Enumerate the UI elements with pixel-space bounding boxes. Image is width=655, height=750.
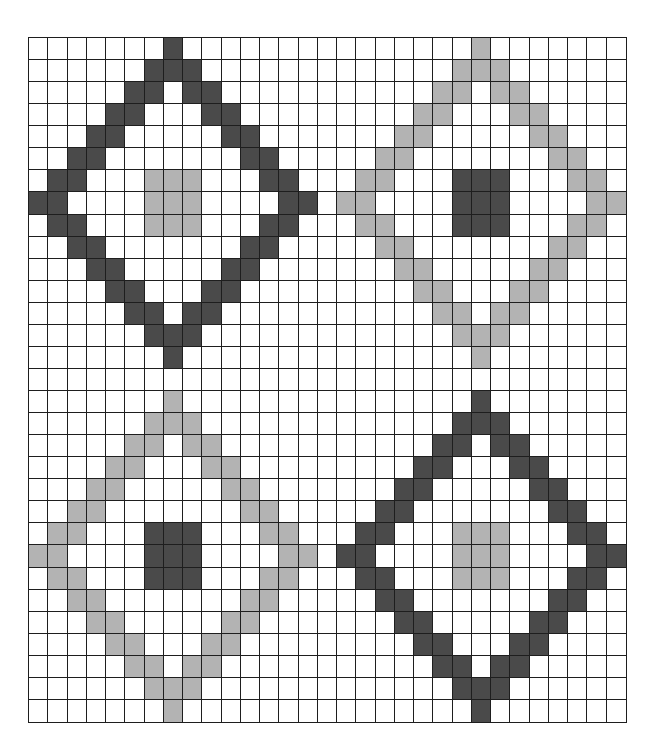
grid-cell <box>491 126 510 148</box>
grid-cell <box>414 237 433 259</box>
bottom-right-diamond-ring-cell <box>607 545 626 567</box>
grid-cell <box>530 590 549 612</box>
top-left-diamond-ring-cell <box>106 104 125 126</box>
grid-cell <box>376 192 395 214</box>
grid-cell <box>549 60 568 82</box>
grid-cell <box>337 435 356 457</box>
grid-cell <box>337 325 356 347</box>
grid-cell <box>587 303 606 325</box>
grid-cell <box>607 303 626 325</box>
grid-cell <box>510 237 529 259</box>
grid-cell <box>125 545 144 567</box>
grid-cell <box>530 192 549 214</box>
top-right-diamond-ring-cell <box>337 192 356 214</box>
grid-cell <box>376 545 395 567</box>
grid-cell <box>279 435 298 457</box>
bottom-right-diamond-ring-cell <box>472 678 491 700</box>
grid-cell <box>241 215 260 237</box>
grid-cell <box>433 568 452 590</box>
grid-cell <box>241 170 260 192</box>
grid-cell <box>299 104 318 126</box>
grid-cell <box>453 104 472 126</box>
grid-cell <box>48 126 67 148</box>
grid-cell <box>376 435 395 457</box>
grid-cell <box>414 501 433 523</box>
top-right-diamond-ring-cell <box>453 325 472 347</box>
top-left-diamond-core-cell <box>164 170 183 192</box>
grid-cell <box>318 391 337 413</box>
grid-cell <box>260 413 279 435</box>
grid-cell <box>202 347 221 369</box>
top-right-diamond-ring-cell <box>414 126 433 148</box>
grid-cell <box>183 634 202 656</box>
grid-cell <box>29 237 48 259</box>
bottom-right-diamond-core-cell <box>453 545 472 567</box>
bottom-right-diamond-ring-cell <box>433 457 452 479</box>
grid-cell <box>433 215 452 237</box>
grid-cell <box>587 612 606 634</box>
grid-cell <box>48 479 67 501</box>
top-right-diamond-ring-cell <box>453 82 472 104</box>
grid-cell <box>299 656 318 678</box>
grid-cell <box>568 479 587 501</box>
grid-cell <box>337 38 356 60</box>
grid-cell <box>549 678 568 700</box>
grid-cell <box>125 479 144 501</box>
grid-cell <box>453 590 472 612</box>
grid-cell <box>337 656 356 678</box>
grid-cell <box>530 656 549 678</box>
grid-cell <box>433 325 452 347</box>
grid-cell <box>433 700 452 722</box>
grid-cell <box>222 568 241 590</box>
bottom-right-diamond-ring-cell <box>433 435 452 457</box>
grid-cell <box>453 457 472 479</box>
grid-cell <box>125 700 144 722</box>
grid-cell <box>395 568 414 590</box>
grid-cell <box>279 479 298 501</box>
grid-cell <box>222 435 241 457</box>
grid-cell <box>241 104 260 126</box>
grid-cell <box>587 281 606 303</box>
grid-cell <box>587 60 606 82</box>
grid-cell <box>164 237 183 259</box>
grid-cell <box>607 82 626 104</box>
top-left-diamond-ring-cell <box>48 215 67 237</box>
grid-cell <box>376 126 395 148</box>
grid-cell <box>587 678 606 700</box>
top-right-diamond-core-cell <box>472 215 491 237</box>
grid-cell <box>68 126 87 148</box>
grid-cell <box>607 590 626 612</box>
grid-cell <box>87 678 106 700</box>
grid-cell <box>510 700 529 722</box>
bottom-left-diamond-ring-cell <box>260 501 279 523</box>
grid-cell <box>414 170 433 192</box>
grid-cell <box>48 82 67 104</box>
grid-cell <box>510 170 529 192</box>
grid-cell <box>337 215 356 237</box>
top-left-diamond-ring-cell <box>68 148 87 170</box>
grid-cell <box>299 347 318 369</box>
grid-cell <box>145 104 164 126</box>
grid-cell <box>145 634 164 656</box>
top-left-diamond-core-cell <box>164 192 183 214</box>
grid-cell <box>568 281 587 303</box>
grid-cell <box>433 479 452 501</box>
bottom-right-diamond-core-cell <box>472 523 491 545</box>
grid-cell <box>145 126 164 148</box>
grid-cell <box>337 523 356 545</box>
grid-cell <box>414 590 433 612</box>
grid-cell <box>145 148 164 170</box>
top-right-diamond-ring-cell <box>376 237 395 259</box>
grid-cell <box>48 678 67 700</box>
bottom-right-diamond-ring-cell <box>491 413 510 435</box>
grid-cell <box>183 104 202 126</box>
grid-cell <box>241 303 260 325</box>
bottom-right-diamond-ring-cell <box>414 479 433 501</box>
grid-cell <box>164 435 183 457</box>
grid-cell <box>29 60 48 82</box>
bottom-left-diamond-ring-cell <box>222 479 241 501</box>
grid-cell <box>164 457 183 479</box>
grid-cell <box>29 170 48 192</box>
grid-cell <box>68 369 87 391</box>
grid-cell <box>279 413 298 435</box>
